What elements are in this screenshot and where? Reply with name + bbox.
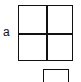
panel-label: a [3,26,10,38]
grid-horizontal-divider [19,33,72,35]
partial-square [43,69,69,82]
two-by-two-grid [18,5,73,61]
